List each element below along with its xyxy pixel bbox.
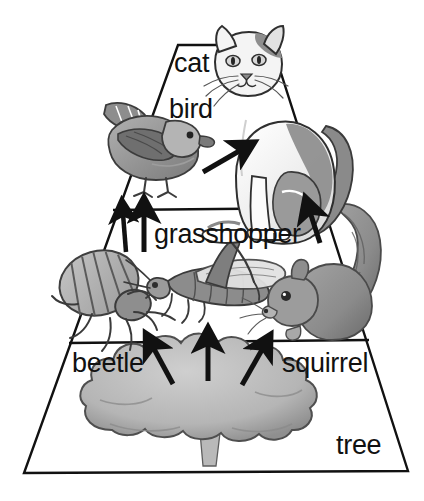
- label-cat: cat: [174, 50, 209, 77]
- squirrel-eye: [281, 291, 291, 301]
- label-grasshopper: grasshopper: [154, 221, 301, 248]
- squirrel-ear: [292, 260, 309, 280]
- cat-ear-left: [216, 26, 236, 52]
- label-tree: tree: [336, 432, 381, 459]
- energy-pyramid-diagram: cat bird grasshopper beetle squirrel tre…: [0, 0, 424, 501]
- label-beetle: beetle: [72, 350, 144, 377]
- pyramid-illustration-canvas: [0, 0, 424, 501]
- bird-eye: [187, 132, 194, 139]
- label-squirrel: squirrel: [282, 350, 368, 377]
- grasshopper-eye: [152, 282, 158, 288]
- arrow-grasshopper-to-bird-1: [123, 214, 126, 252]
- squirrel-nose: [264, 309, 268, 313]
- squirrel-head: [268, 276, 318, 326]
- label-bird: bird: [169, 96, 213, 123]
- squirrel-eye-highlight: [283, 293, 286, 296]
